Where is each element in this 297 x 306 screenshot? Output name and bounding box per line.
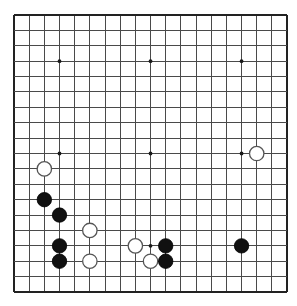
- star-point-7: [149, 244, 153, 248]
- black-stone-q4[interactable]: [234, 239, 248, 253]
- white-stone-c9[interactable]: [37, 162, 51, 176]
- white-stone-j4[interactable]: [128, 239, 142, 253]
- go-board-container[interactable]: [0, 0, 297, 306]
- black-stone-l3[interactable]: [159, 254, 173, 268]
- star-point-1: [149, 59, 153, 63]
- white-stone-q10[interactable]: [250, 146, 264, 160]
- star-point-5: [240, 152, 244, 156]
- black-stone-d6[interactable]: [52, 208, 66, 222]
- white-stone-f5[interactable]: [83, 223, 97, 237]
- go-board-canvas[interactable]: [0, 0, 297, 306]
- star-point-4: [149, 152, 153, 156]
- black-stone-l4[interactable]: [159, 239, 173, 253]
- black-stone-d3[interactable]: [52, 254, 66, 268]
- star-point-0: [58, 59, 62, 63]
- star-point-2: [240, 59, 244, 63]
- black-stone-c7[interactable]: [37, 192, 51, 206]
- star-point-3: [58, 152, 62, 156]
- white-stone-f3[interactable]: [83, 254, 97, 268]
- black-stone-d4[interactable]: [52, 239, 66, 253]
- white-stone-k3[interactable]: [143, 254, 157, 268]
